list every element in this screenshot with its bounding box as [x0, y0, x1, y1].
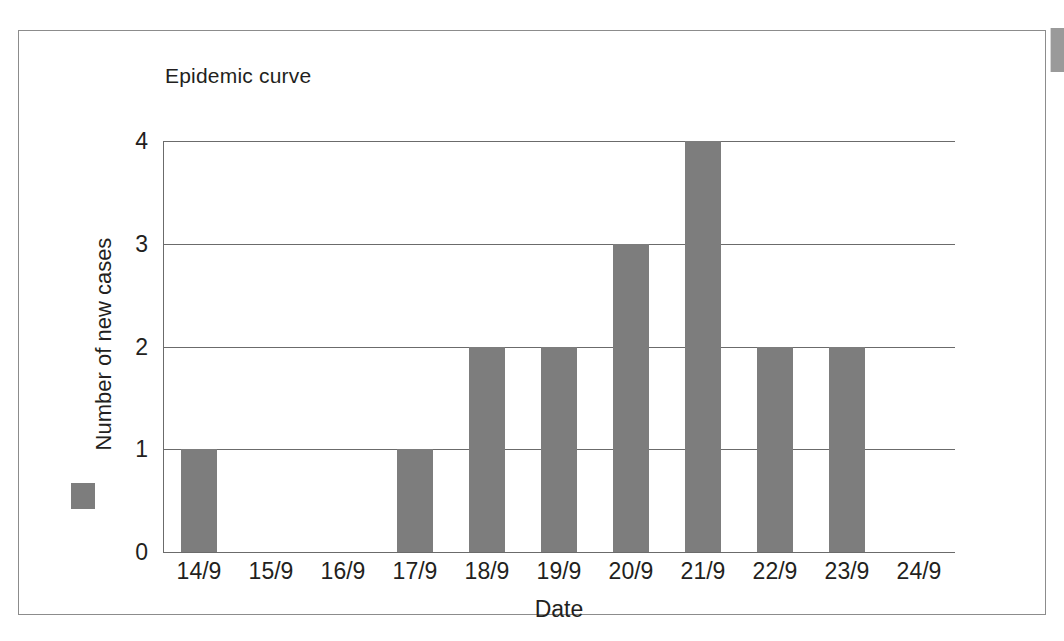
x-tick-label-19-9: 19/9 [537, 558, 582, 585]
x-tick-label-15-9: 15/9 [249, 558, 294, 585]
x-tick-label-16-9: 16/9 [321, 558, 366, 585]
plot-area [163, 141, 955, 552]
y-tick-label-0: 0 [114, 539, 148, 566]
x-tick-label-18-9: 18/9 [465, 558, 510, 585]
bar-20-9 [613, 244, 649, 552]
chart-title: Epidemic curve [165, 64, 311, 88]
gridline-y-4 [163, 141, 955, 142]
x-axis-title: Date [163, 596, 955, 623]
legend-color-swatch [71, 483, 95, 509]
x-tick-label-22-9: 22/9 [753, 558, 798, 585]
figure-border: Epidemic curve Number of new cases 01234… [18, 30, 1046, 615]
figure-page: Epidemic curve Number of new cases 01234… [0, 0, 1064, 641]
page-edge-artifact [1050, 28, 1064, 72]
gridline-y-3 [163, 244, 955, 245]
bar-17-9 [397, 449, 433, 552]
bar-19-9 [541, 347, 577, 553]
x-tick-label-20-9: 20/9 [609, 558, 654, 585]
y-tick-label-2: 2 [114, 333, 148, 360]
bar-22-9 [757, 347, 793, 553]
x-tick-label-14-9: 14/9 [177, 558, 222, 585]
y-tick-label-4: 4 [114, 128, 148, 155]
bar-18-9 [469, 347, 505, 553]
x-tick-label-23-9: 23/9 [825, 558, 870, 585]
x-tick-label-24-9: 24/9 [897, 558, 942, 585]
bar-21-9 [685, 141, 721, 552]
x-tick-label-17-9: 17/9 [393, 558, 438, 585]
bar-14-9 [181, 449, 217, 552]
gridline-y-0 [163, 552, 955, 553]
x-tick-label-21-9: 21/9 [681, 558, 726, 585]
y-tick-label-3: 3 [114, 230, 148, 257]
bar-23-9 [829, 347, 865, 553]
y-tick-label-1: 1 [114, 436, 148, 463]
